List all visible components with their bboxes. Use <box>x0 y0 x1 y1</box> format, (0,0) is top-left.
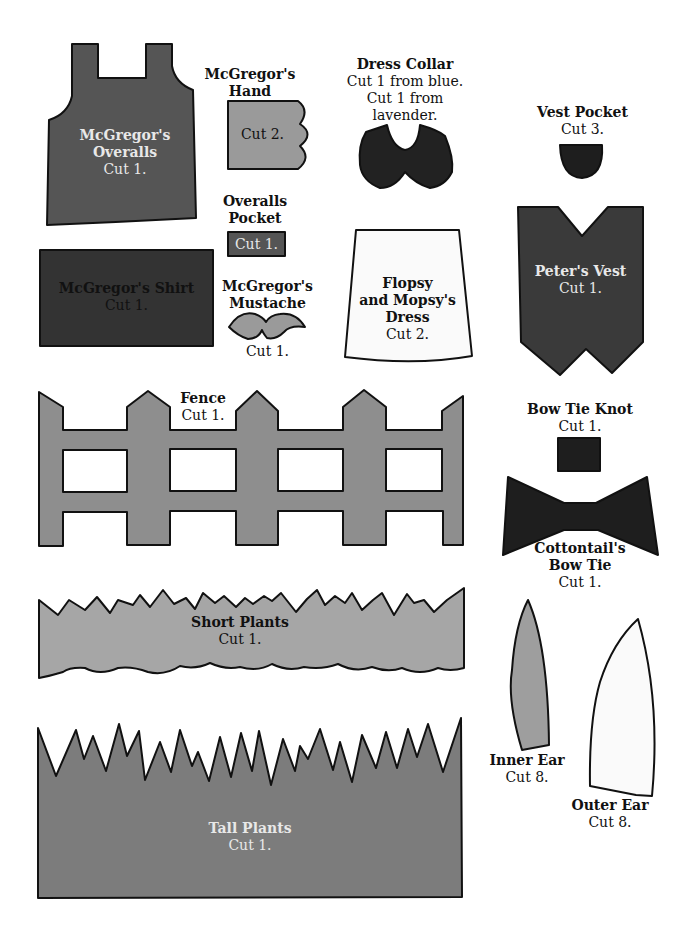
tall-plants-cut: Cut 1. <box>190 837 310 854</box>
inner-ear-title: Inner Ear <box>482 752 572 769</box>
shirt-title: McGregor's Shirt <box>40 280 213 297</box>
dress-collar-label: Dress Collar Cut 1 from blue. Cut 1 from… <box>330 56 480 124</box>
bow-tie-knot-label: Bow Tie Knot Cut 1. <box>510 401 650 435</box>
bow-tie-cut: Cut 1. <box>520 574 640 591</box>
inner-ear-shape <box>511 600 549 750</box>
vest-cut: Cut 1. <box>518 280 643 297</box>
hand-cut: Cut 2. <box>225 126 300 143</box>
bow-tie-knot-cut: Cut 1. <box>510 418 650 435</box>
dress-collar-cut-line2: Cut 1 from <box>330 90 480 107</box>
overalls-title-line2: Overalls <box>60 144 190 161</box>
vest-pocket-title: Vest Pocket <box>520 104 645 121</box>
hand-title-line2: Hand <box>200 83 300 100</box>
tall-plants-title: Tall Plants <box>190 820 310 837</box>
dress-collar-cut-line1: Cut 1 from blue. <box>330 73 480 90</box>
shirt-label: McGregor's Shirt Cut 1. <box>40 280 213 314</box>
fence-cut: Cut 1. <box>170 407 236 424</box>
overalls-label: McGregor's Overalls Cut 1. <box>60 127 190 178</box>
mustache-title-line2: Mustache <box>215 295 320 312</box>
short-plants-cut: Cut 1. <box>180 631 300 648</box>
hand-label: McGregor's Hand <box>200 66 300 100</box>
short-plants-title: Short Plants <box>180 614 300 631</box>
dress-collar-cut-line3: lavender. <box>330 107 480 124</box>
mustache-cut-label: Cut 1. <box>230 343 305 360</box>
hand-cut-label: Cut 2. <box>225 126 300 143</box>
overalls-pocket-cut: Cut 1. <box>228 236 285 253</box>
bow-tie-knot-shape <box>558 438 600 471</box>
vest-pocket-shape <box>560 145 602 178</box>
bow-tie-title-line2: Bow Tie <box>520 557 640 574</box>
overalls-title-line1: McGregor's <box>60 127 190 144</box>
fence-label: Fence Cut 1. <box>170 390 236 424</box>
mustache-cut: Cut 1. <box>230 343 305 360</box>
tall-plants-shape <box>38 718 462 898</box>
dress-collar-title: Dress Collar <box>330 56 480 73</box>
fence-shape <box>39 390 463 546</box>
overalls-pocket-title-line2: Pocket <box>205 210 305 227</box>
bow-tie-title-line1: Cottontail's <box>520 540 640 557</box>
overalls-cut: Cut 1. <box>60 161 190 178</box>
outer-ear-label: Outer Ear Cut 8. <box>560 797 660 831</box>
bow-tie-label: Cottontail's Bow Tie Cut 1. <box>520 540 640 591</box>
mustache-title-line1: McGregor's <box>215 278 320 295</box>
inner-ear-label: Inner Ear Cut 8. <box>482 752 572 786</box>
mustache-shape <box>229 313 305 339</box>
mustache-label: McGregor's Mustache <box>215 278 320 312</box>
dress-title-line1: Flopsy <box>345 275 470 292</box>
vest-pocket-cut: Cut 3. <box>520 121 645 138</box>
shirt-cut: Cut 1. <box>40 297 213 314</box>
hand-title-line1: McGregor's <box>200 66 300 83</box>
inner-ear-cut: Cut 8. <box>482 769 572 786</box>
fence-title: Fence <box>170 390 236 407</box>
bow-tie-knot-title: Bow Tie Knot <box>510 401 650 418</box>
dress-cut: Cut 2. <box>345 326 470 343</box>
dress-title-line2: and Mopsy's <box>345 292 470 309</box>
dress-label: Flopsy and Mopsy's Dress Cut 2. <box>345 275 470 343</box>
short-plants-label: Short Plants Cut 1. <box>180 614 300 648</box>
dress-collar-shape <box>360 125 453 188</box>
dress-title-line3: Dress <box>345 309 470 326</box>
vest-pocket-label: Vest Pocket Cut 3. <box>520 104 645 138</box>
overalls-pocket-title-line1: Overalls <box>205 193 305 210</box>
vest-title: Peter's Vest <box>518 263 643 280</box>
tall-plants-label: Tall Plants Cut 1. <box>190 820 310 854</box>
vest-label: Peter's Vest Cut 1. <box>518 263 643 297</box>
outer-ear-title: Outer Ear <box>560 797 660 814</box>
outer-ear-shape <box>590 619 655 796</box>
overalls-pocket-label: Overalls Pocket <box>205 193 305 227</box>
overalls-pocket-cut-label: Cut 1. <box>228 236 285 253</box>
outer-ear-cut: Cut 8. <box>560 814 660 831</box>
